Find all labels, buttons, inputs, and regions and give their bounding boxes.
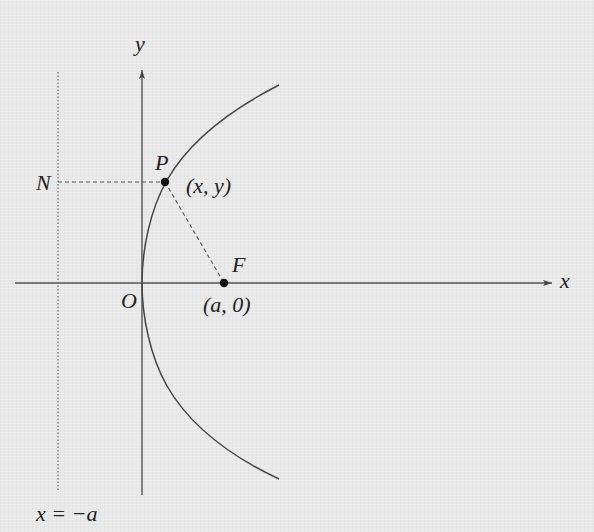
point-p-dot (161, 178, 169, 186)
point-p-coords: (x, y) (186, 175, 231, 197)
directrix-label: x = −a (36, 503, 97, 525)
point-n-label: N (36, 172, 51, 194)
y-axis-label: y (135, 33, 145, 55)
point-f-label: F (232, 254, 245, 276)
point-f-dot (220, 279, 228, 287)
point-f-coords: (a, 0) (203, 294, 251, 316)
parabola-curve (142, 85, 279, 479)
parabola-diagram: y x O P (x, y) N F (a, 0) x = −a (0, 0, 594, 532)
x-axis-label: x (560, 270, 570, 292)
origin-label: O (121, 290, 137, 312)
point-p-label: P (155, 152, 168, 174)
diagram-graphics (0, 0, 594, 532)
